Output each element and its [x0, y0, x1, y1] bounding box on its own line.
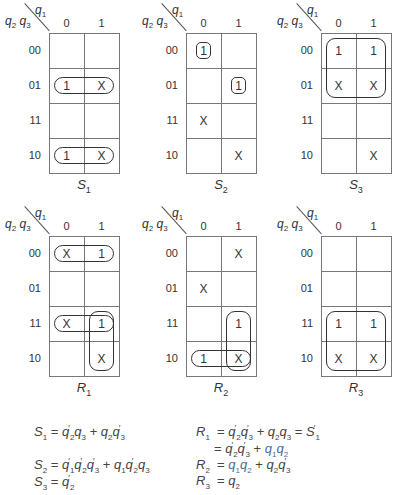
- grouping-loop: [326, 38, 386, 98]
- kmap-title: S3: [321, 177, 391, 195]
- row-header: 00: [154, 247, 178, 259]
- kmap-cell: [84, 33, 119, 68]
- kmap-cell: [321, 271, 356, 306]
- kmap-cell: [356, 271, 391, 306]
- row-header: 01: [154, 79, 178, 91]
- kmap-s2: q1q2 q3010001111011XXS2: [137, 0, 267, 190]
- grouping-loop: [54, 147, 114, 164]
- kmap-title: R2: [186, 380, 256, 398]
- row-header: 11: [289, 114, 313, 126]
- row-header: 10: [17, 352, 41, 364]
- equation-r2: R2 = q1q2 + q2q′3: [196, 456, 291, 475]
- row-header: 01: [289, 282, 313, 294]
- column-header: 1: [356, 17, 391, 29]
- kmap-cell: [84, 271, 119, 306]
- equation-s2: S2 = q′1q′2q′3 + q1q′2q3: [34, 456, 150, 475]
- column-variable-label: q1: [307, 3, 318, 19]
- equation-r1-line1: R1 = q′2q′3 + q2q3 = S′1: [196, 423, 320, 442]
- kmap-cell: X: [356, 138, 391, 173]
- column-variable-label: q1: [35, 206, 46, 222]
- kmap-title: S2: [186, 177, 256, 195]
- kmap-cell: [221, 33, 256, 68]
- column-header: 0: [49, 220, 84, 232]
- row-header: 00: [17, 44, 41, 56]
- column-header: 1: [84, 17, 119, 29]
- column-header: 1: [356, 220, 391, 232]
- kmap-cell: [49, 341, 84, 376]
- grouping-loop: [54, 245, 114, 262]
- row-header: 10: [154, 352, 178, 364]
- kmap-cell: [321, 138, 356, 173]
- row-header: 01: [17, 79, 41, 91]
- column-header: 0: [49, 17, 84, 29]
- column-variable-label: q1: [172, 3, 183, 19]
- kmap-cell: X: [221, 138, 256, 173]
- column-header: 1: [221, 17, 256, 29]
- grouping-loop: [191, 350, 251, 367]
- column-header: 0: [186, 220, 221, 232]
- equation-r3: R3 = q2: [196, 473, 240, 491]
- row-header: 00: [154, 44, 178, 56]
- kmap-title: R1: [49, 380, 119, 398]
- kmap-r2: q1q2 q30100011110XX11XR2: [137, 203, 267, 393]
- kmap-r1: q1q2 q30100011110X1X1XR1: [0, 203, 130, 393]
- column-header: 0: [321, 220, 356, 232]
- row-header: 11: [17, 317, 41, 329]
- kmap-cell: [356, 103, 391, 138]
- grouping-loop: [54, 77, 114, 94]
- row-header: 00: [17, 247, 41, 259]
- kmap-cell: X: [221, 236, 256, 271]
- kmap-cell: [356, 236, 391, 271]
- row-variable-label: q2 q3: [5, 217, 31, 233]
- kmap-title: R3: [321, 380, 391, 398]
- grouping-loop: [326, 311, 386, 371]
- column-variable-label: q1: [172, 206, 183, 222]
- column-header: 0: [321, 17, 356, 29]
- row-variable-label: q2 q3: [277, 217, 303, 233]
- kmap-s1: q1q2 q301000111101X1XS1: [0, 0, 130, 190]
- row-header: 01: [154, 282, 178, 294]
- row-header: 11: [17, 114, 41, 126]
- row-variable-label: q2 q3: [5, 14, 31, 30]
- kmap-cell: [186, 236, 221, 271]
- row-variable-label: q2 q3: [277, 14, 303, 30]
- kmap-cell: [321, 236, 356, 271]
- kmap-cell: [186, 138, 221, 173]
- column-variable-label: q1: [35, 3, 46, 19]
- kmap-cell: [186, 306, 221, 341]
- grouping-loop: [89, 311, 114, 371]
- row-header: 10: [289, 352, 313, 364]
- kmap-cell: [186, 68, 221, 103]
- grouping-loop: [231, 77, 246, 94]
- row-variable-label: q2 q3: [142, 217, 168, 233]
- row-header: 01: [289, 79, 313, 91]
- column-header: 1: [84, 220, 119, 232]
- row-variable-label: q2 q3: [142, 14, 168, 30]
- column-variable-label: q1: [307, 206, 318, 222]
- kmap-cell: X: [186, 271, 221, 306]
- row-header: 10: [17, 149, 41, 161]
- kmap-cell: [321, 103, 356, 138]
- kmap-cell: [49, 271, 84, 306]
- kmap-cell: [221, 271, 256, 306]
- kmap-cell: [49, 103, 84, 138]
- equation-s3: S3 = q′2: [34, 473, 74, 492]
- row-header: 11: [154, 317, 178, 329]
- column-header: 1: [221, 220, 256, 232]
- row-header: 00: [289, 247, 313, 259]
- row-header: 00: [289, 44, 313, 56]
- kmap-title: S1: [49, 177, 119, 195]
- row-header: 11: [289, 317, 313, 329]
- kmap-cell: X: [186, 103, 221, 138]
- equation-s1: S1 = q′2q3 + q2q′3: [34, 423, 125, 442]
- kmap-r3: q1q2 q3010001111011XXR3: [272, 203, 401, 393]
- row-header: 11: [154, 114, 178, 126]
- row-header: 01: [17, 282, 41, 294]
- kmap-cell: [84, 103, 119, 138]
- kmap-cell: [49, 33, 84, 68]
- kmap-s3: q1q2 q3010001111011XXXS3: [272, 0, 401, 190]
- row-header: 10: [154, 149, 178, 161]
- column-header: 0: [186, 17, 221, 29]
- grouping-loop: [196, 42, 211, 59]
- row-header: 10: [289, 149, 313, 161]
